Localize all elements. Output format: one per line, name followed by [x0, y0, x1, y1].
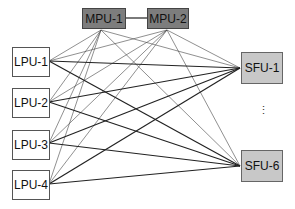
lpu-4-label: LPU-4 — [14, 178, 48, 192]
sfu-6-node: SFU-6 — [241, 150, 283, 182]
lpu-3-node: LPU-3 — [12, 130, 50, 160]
sfu-1-node: SFU-1 — [241, 52, 283, 84]
sfu-1-label: SFU-1 — [245, 61, 280, 75]
lpu-1-node: LPU-1 — [12, 47, 50, 77]
lpu-3-label: LPU-3 — [14, 138, 48, 152]
mpu-1-label: MPU-1 — [85, 12, 122, 26]
mpu-2-node: MPU-2 — [147, 8, 189, 29]
lpu-4-node: LPU-4 — [12, 170, 50, 200]
sfu-6-label: SFU-6 — [245, 159, 280, 173]
lpu-2-label: LPU-2 — [14, 96, 48, 110]
lpu-2-node: LPU-2 — [12, 88, 50, 118]
mpu-1-node: MPU-1 — [82, 8, 126, 29]
vertical-ellipsis-icon: ⋮ — [258, 108, 264, 112]
lpu-1-label: LPU-1 — [14, 55, 48, 69]
mpu-2-label: MPU-2 — [149, 12, 186, 26]
